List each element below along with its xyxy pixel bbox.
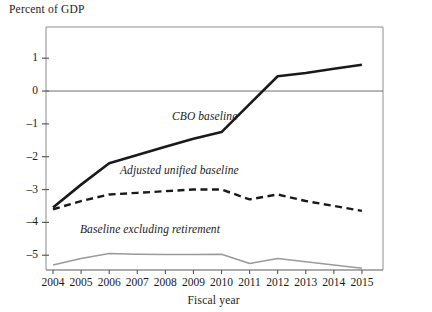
y-tick-label-3: –2 (12, 151, 38, 163)
series-line-2 (53, 254, 362, 269)
y-tick-label-5: –4 (12, 216, 38, 228)
plot-area (0, 0, 432, 312)
y-tick-label-0: 1 (12, 52, 38, 64)
y-tick-label-6: –5 (12, 249, 38, 261)
y-tick-label-1: 0 (12, 85, 38, 97)
series-annotation-0: CBO baseline (172, 110, 237, 122)
series-line-1 (53, 190, 362, 211)
series-annotation-1: Adjusted unified baseline (120, 164, 239, 176)
y-tick-label-2: –1 (12, 118, 38, 130)
x-axis-label: Fiscal year (188, 294, 240, 306)
y-tick-label-4: –3 (12, 184, 38, 196)
series-annotation-2: Baseline excluding retirement (80, 223, 220, 235)
x-tick-label-11: 2015 (342, 277, 382, 289)
series-line-0 (53, 65, 362, 208)
chart-figure: Percent of GDP 10–1–2–3–4–5 200420052006… (0, 0, 432, 312)
